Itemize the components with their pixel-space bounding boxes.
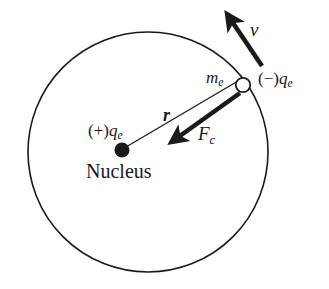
radius-label: r (163, 106, 170, 124)
electron-charge-subscript: e (287, 77, 292, 90)
electron-circle (236, 78, 250, 92)
centripetal-force-subscript: c (210, 132, 216, 147)
velocity-label: v (250, 20, 258, 39)
nucleus-charge-sign: (+) (88, 121, 109, 140)
orbit-circle (28, 32, 268, 272)
nucleus-caption: Nucleus (86, 161, 152, 181)
nucleus-charge-label: (+)qe (88, 122, 123, 142)
electron-mass-subscript: e (218, 76, 223, 89)
electron-charge-label: (−)qe (258, 70, 293, 90)
centripetal-force-label: Fc (198, 124, 215, 147)
nucleus-dot (115, 143, 130, 158)
bohr-atom-diagram: v me (−)qe r Fc (+)qe Nucleus (0, 0, 329, 289)
electron-charge-sign: (−) (258, 69, 279, 88)
electron-mass-label: me (206, 69, 223, 89)
nucleus-charge-subscript: e (117, 129, 122, 142)
figure-canvas (0, 0, 329, 289)
